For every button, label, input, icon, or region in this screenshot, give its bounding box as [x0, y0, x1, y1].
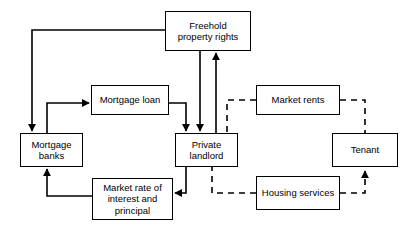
edge-private-landlord-to-market-rate	[175, 167, 186, 193]
edge-housing-services-to-tenant	[340, 171, 365, 193]
node-mortgage-loan-label: Mortgage loan	[98, 94, 163, 106]
edge-mortgage-loan-to-private-landlord	[169, 103, 186, 131]
node-housing-services-label: Housing services	[260, 187, 336, 199]
node-market-rents-label: Market rents	[270, 94, 327, 106]
node-market-rate-of-interest-and-principal[interactable]: Market rate of interest and principal	[92, 178, 173, 220]
node-private-landlord-label: Private landlord	[188, 139, 226, 162]
node-mortgage-banks[interactable]: Mortgage banks	[20, 133, 83, 167]
edge-market-rents-to-tenant	[340, 100, 365, 133]
node-tenant-label: Tenant	[349, 144, 382, 156]
node-mortgage-banks-label: Mortgage banks	[29, 139, 73, 162]
node-freehold-property-rights[interactable]: Freehold property rights	[165, 11, 251, 51]
node-private-landlord[interactable]: Private landlord	[175, 133, 238, 167]
node-freehold-property-rights-label: Freehold property rights	[176, 20, 241, 43]
edge-freehold-to-mortgage-banks	[32, 30, 165, 131]
edge-housing-services-to-private-landlord	[212, 167, 256, 193]
node-tenant[interactable]: Tenant	[332, 133, 398, 167]
diagram-canvas: Freehold property rights Mortgage loan M…	[0, 0, 416, 232]
node-market-rents[interactable]: Market rents	[256, 85, 340, 115]
edge-mortgage-banks-to-mortgage-loan	[47, 103, 89, 133]
node-market-rate-label: Market rate of interest and principal	[101, 182, 164, 217]
edge-market-rate-to-mortgage-banks	[47, 169, 92, 196]
node-mortgage-loan[interactable]: Mortgage loan	[91, 85, 169, 115]
node-housing-services[interactable]: Housing services	[256, 176, 340, 210]
edge-market-rents-to-private-landlord	[227, 100, 256, 133]
